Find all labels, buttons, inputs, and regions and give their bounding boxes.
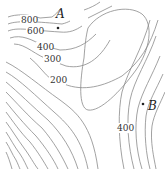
- contour-map: 800 600 400 300 200 400 A B: [0, 0, 165, 169]
- contour-label-300: 300: [44, 54, 61, 64]
- point-a-marker: [57, 27, 60, 30]
- contour-label-400-right: 400: [117, 123, 134, 133]
- point-b: B: [142, 99, 157, 113]
- point-a-label: A: [55, 7, 65, 21]
- contour-label-800: 800: [21, 15, 38, 25]
- point-b-label: B: [147, 99, 157, 113]
- contour-label-400-left: 400: [37, 42, 54, 52]
- contour-label-200: 200: [50, 75, 67, 85]
- point-b-marker: [142, 103, 145, 106]
- point-a: A: [55, 7, 65, 29]
- contour-label-600: 600: [27, 26, 44, 36]
